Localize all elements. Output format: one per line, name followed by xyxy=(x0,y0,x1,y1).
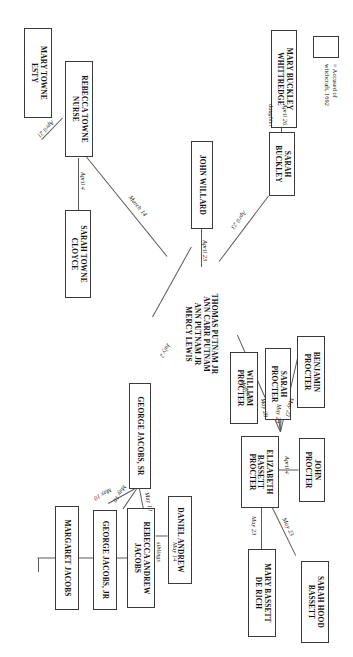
edge-label-may-29-sarah: May 29 xyxy=(275,404,283,424)
node-label: MARGARET JACOBS xyxy=(63,509,72,607)
edge-label-april-26: April 26 xyxy=(282,104,289,125)
edge-label-may-23-derich: May 23 xyxy=(251,516,258,535)
node-label: REBECCA ANDREWJACOBS xyxy=(132,511,149,605)
node-label: BENJAMINPROCTER xyxy=(302,339,319,405)
edge-rebecca-bracket-across xyxy=(38,558,39,572)
node-benjamin-procter[interactable]: BENJAMINPROCTER xyxy=(297,336,325,408)
node-label: JOHNPROCTER xyxy=(303,441,320,499)
node-margaret-jacobs[interactable]: MARGARET JACOBS xyxy=(55,506,79,610)
node-elizabeth-bassett-procter[interactable]: ELIZABETHBASSETTPROCTER xyxy=(241,436,279,508)
node-rebecca-towne-nurse[interactable]: REBECCA TOWNENURSE xyxy=(65,61,93,157)
edge-label-daughter: daughter xyxy=(268,104,275,127)
node-label: GEORGE JACOBS, SR xyxy=(136,386,145,486)
edge-label-siblings: siblings xyxy=(156,542,163,562)
edge-label-april-21: April 21 xyxy=(36,120,56,140)
node-thomas-putnam-group[interactable]: THOMAS PUTNAM JRANN CARR PUTNAMANN PUTNA… xyxy=(177,278,225,390)
node-label: SARAH TOWNECLOYCE xyxy=(69,213,86,295)
node-label: REBECCA TOWNENURSE xyxy=(70,64,87,154)
edge-rebecca-nurse-to-putnam xyxy=(86,157,167,257)
node-mary-towne-esty[interactable]: MARY TOWNEESTY xyxy=(24,28,52,118)
edge-elizabeth-to-mary-derich xyxy=(261,508,262,549)
legend-text: = Accused of witchcraft, 1692 xyxy=(323,64,339,106)
legend-accused-box xyxy=(313,36,339,58)
node-label: THOMAS PUTNAM JRANN CARR PUTNAMANN PUTNA… xyxy=(184,280,219,388)
node-label: MARY BASSETTDE RICH xyxy=(253,552,270,634)
node-label: JOHN WILLARD xyxy=(198,144,207,226)
node-george-jacobs-jr[interactable]: GEORGE JACOBS, JR xyxy=(93,510,117,610)
edge-rebecca-nurse-to-sarah-cloyce xyxy=(78,158,79,210)
diagram-canvas: MARY BUCKLEYWHITTREDGE SARAHBUCKLEY JOHN… xyxy=(0,0,353,657)
node-rebecca-andrew-jacobs[interactable]: REBECCA ANDREWJACOBS xyxy=(127,508,155,608)
node-george-jacobs-sr[interactable]: GEORGE JACOBS, SR xyxy=(129,383,151,489)
node-sarah-buckley[interactable]: SARAHBUCKLEY xyxy=(269,132,295,196)
node-sarah-hood-bassett[interactable]: SARAH HOODBASSETT xyxy=(301,561,329,643)
node-label: MARY TOWNEESTY xyxy=(29,31,46,115)
edge-sarah-buckley-to-putnam xyxy=(219,196,269,262)
node-john-procter[interactable]: JOHNPROCTER xyxy=(299,438,325,502)
node-john-willard[interactable]: JOHN WILLARD xyxy=(191,141,213,229)
edge-label-april-23-buckley: April 23 xyxy=(230,210,248,231)
edge-label-may-14-siblings: May 14 xyxy=(172,542,179,561)
node-daniel-andrew[interactable]: DANIEL ANDREW xyxy=(168,496,192,584)
node-label: SARAHBUCKLEY xyxy=(273,135,290,193)
edge-label-april-4-procter: April 4 xyxy=(284,456,291,474)
node-label: DANIEL ANDREW xyxy=(176,499,185,581)
node-label: ELIZABETHBASSETTPROCTER xyxy=(247,439,273,505)
node-label: GEORGE JACOBS, JR xyxy=(101,513,110,607)
edge-daniel-andrew-to-rebecca xyxy=(156,536,168,537)
edge-label-april-23-willard: April 23 xyxy=(202,240,209,261)
edge-label-april-4-towne: April 4 xyxy=(80,172,87,190)
node-label: SARAH HOODBASSETT xyxy=(306,564,323,640)
edge-label-march-14: March 14 xyxy=(128,194,149,218)
edge-label-may-10-margaret: May 10 xyxy=(93,487,113,503)
node-sarah-towne-cloyce[interactable]: SARAH TOWNECLOYCE xyxy=(65,210,91,298)
node-mary-bassett-de-rich[interactable]: MARY BASSETTDE RICH xyxy=(248,549,276,637)
edge-label-july-2: July 2 xyxy=(159,342,173,359)
